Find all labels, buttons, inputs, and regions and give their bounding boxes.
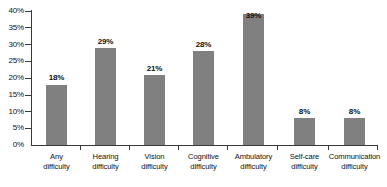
y-tick-label-10: 10% <box>0 108 24 116</box>
y-tick-label-40: 40% <box>0 7 24 15</box>
x-axis-tick <box>328 146 329 150</box>
x-axis-tick <box>227 146 228 150</box>
bar-chart: 40% 35% 30% 25% 20% 15% 10% 5% 0% 18% 29… <box>0 0 387 187</box>
bar-ambulatory-difficulty <box>243 14 264 145</box>
bar-value-label: 29% <box>76 38 136 46</box>
y-tick-label-20: 20% <box>0 74 24 82</box>
y-tick-label-0: 0% <box>0 141 24 149</box>
x-axis-line <box>31 145 378 146</box>
y-tick-label-35: 35% <box>0 24 24 32</box>
x-axis-tick <box>80 146 81 150</box>
x-axis-tick <box>178 146 179 150</box>
category-line-2: difficulty <box>324 162 386 172</box>
bar-communication-difficulty <box>344 118 365 145</box>
bar-value-label: 28% <box>174 41 234 49</box>
category-line-1: Communication <box>324 152 386 162</box>
x-axis-tick <box>129 146 130 150</box>
x-axis-tick <box>277 146 278 150</box>
y-tick-label-30: 30% <box>0 41 24 49</box>
x-category-label-communication-difficulty: Communication difficulty <box>324 152 386 171</box>
x-axis-tick <box>377 146 378 150</box>
bar-self-care-difficulty <box>294 118 315 145</box>
bar-value-label: 39% <box>224 12 284 20</box>
bar-cognitive-difficulty <box>193 51 214 145</box>
bar-value-label: 21% <box>125 65 185 73</box>
y-tick-label-25: 25% <box>0 57 24 65</box>
y-tick-label-15: 15% <box>0 91 24 99</box>
bar-value-label: 8% <box>325 108 385 116</box>
bar-vision-difficulty <box>144 75 165 145</box>
bar-hearing-difficulty <box>95 48 116 145</box>
bar-value-label: 18% <box>27 74 87 82</box>
y-tick-label-5: 5% <box>0 124 24 132</box>
bar-any-difficulty <box>46 85 67 145</box>
